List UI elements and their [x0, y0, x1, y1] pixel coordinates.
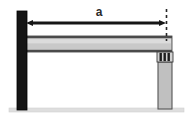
bearing-bar-1 [160, 53, 162, 61]
right-column [158, 62, 172, 109]
horizontal-beam [25, 36, 172, 52]
bearing-bar-3 [168, 53, 170, 61]
bearing-stiffener-bars [160, 53, 170, 61]
span-dimension-label: a [96, 5, 103, 19]
diagram-canvas: a [0, 0, 191, 120]
beam-top-flange [25, 36, 172, 38]
bearing-bar-2 [164, 53, 166, 61]
beam-bottom-flange [25, 50, 172, 52]
beam-highlight-stripe [26, 39, 171, 43]
left-column [17, 11, 27, 110]
structural-frame-diagram: a [0, 0, 191, 120]
